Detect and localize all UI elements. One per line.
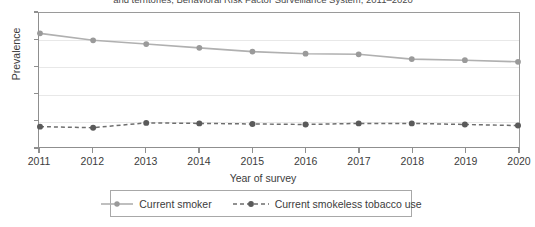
chart-legend: Current smoker Current smokeless tobacco…: [110, 190, 412, 217]
data-point-marker: [143, 120, 149, 126]
data-point-marker: [303, 122, 309, 128]
data-point-marker: [303, 51, 309, 57]
x-axis-tick-mark: [518, 148, 519, 153]
series-current-smoker: [37, 31, 521, 65]
data-point-marker: [37, 124, 43, 130]
x-axis-tick-mark: [198, 148, 199, 153]
y-axis-tick-mark: [34, 147, 38, 148]
data-point-marker: [90, 125, 96, 131]
y-axis-tick-mark: [34, 120, 38, 121]
y-axis-label: Prevalence: [10, 14, 22, 94]
legend-swatch-dashed-line-icon: [232, 198, 270, 210]
series-line: [40, 33, 518, 61]
x-axis-tick-label: 2012: [69, 155, 115, 167]
x-axis-tick-label: 2019: [443, 155, 489, 167]
series-layer: [39, 13, 519, 147]
data-point-marker: [409, 120, 415, 126]
x-axis-tick-mark: [358, 148, 359, 153]
y-axis-tick-mark: [34, 11, 38, 12]
data-point-marker: [356, 51, 362, 57]
x-axis-tick-label: 2016: [283, 155, 329, 167]
legend-label: Current smokeless tobacco use: [275, 198, 422, 210]
series-current-smokeless-tobacco-use: [37, 120, 521, 131]
data-point-marker: [196, 45, 202, 51]
data-point-marker: [356, 120, 362, 126]
data-point-marker: [462, 122, 468, 128]
data-point-marker: [409, 56, 415, 62]
chart-title: and territories, Behavioral Risk Factor …: [0, 0, 526, 7]
x-axis-tick-label: 2018: [389, 155, 435, 167]
data-point-marker: [249, 121, 255, 127]
plot-area: [38, 12, 520, 148]
x-axis-tick-mark: [412, 148, 413, 153]
legend-item-current-smoker: Current smoker: [100, 198, 211, 210]
data-point-marker: [143, 41, 149, 47]
legend-item-current-smokeless-tobacco-use: Current smokeless tobacco use: [232, 198, 422, 210]
series-line: [40, 123, 518, 128]
x-axis-tick-mark: [305, 148, 306, 153]
data-point-marker: [462, 57, 468, 63]
x-axis-tick-label: 2020: [496, 155, 535, 167]
y-axis-tick-mark: [34, 93, 38, 94]
x-axis-tick-mark: [252, 148, 253, 153]
x-axis-tick-label: 2017: [336, 155, 382, 167]
x-axis-label: Year of survey: [0, 172, 526, 184]
x-axis-tick-mark: [145, 148, 146, 153]
data-point-marker: [250, 49, 256, 55]
x-axis-tick-label: 2011: [16, 155, 62, 167]
x-axis-tick-label: 2015: [229, 155, 275, 167]
legend-label: Current smoker: [139, 198, 211, 210]
x-axis-tick-mark: [465, 148, 466, 153]
x-axis-tick-label: 2013: [123, 155, 169, 167]
data-point-marker: [515, 123, 521, 129]
y-axis-tick-mark: [34, 66, 38, 67]
data-point-marker: [90, 37, 96, 43]
y-axis-tick-mark: [34, 39, 38, 40]
x-axis-tick-label: 2014: [176, 155, 222, 167]
data-point-marker: [515, 59, 521, 65]
x-axis-tick-mark: [92, 148, 93, 153]
data-point-marker: [196, 120, 202, 126]
legend-swatch-solid-line-icon: [100, 198, 134, 210]
data-point-marker: [37, 31, 43, 37]
x-axis-tick-mark: [38, 148, 39, 153]
